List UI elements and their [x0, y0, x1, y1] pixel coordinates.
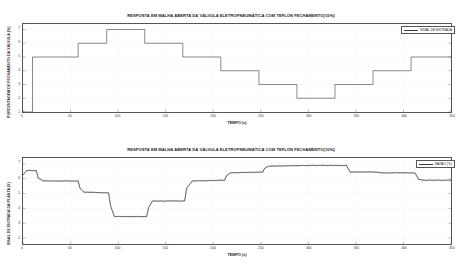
x-tick-label: 200	[205, 247, 221, 250]
chart-title-top: RESPOSTA EM MALHA ABERTA DA VÁLVULA ELET…	[0, 13, 462, 18]
chart-panel-bottom: RESPOSTA EM MALHA ABERTA DA VÁLVULA ELET…	[0, 133, 462, 266]
x-tick-label: 50	[62, 115, 78, 118]
y-tick-label: 4	[8, 207, 20, 210]
x-tick-label: 150	[157, 247, 173, 250]
x-tick-label: 150	[157, 115, 173, 118]
chart-panel-top: RESPOSTA EM MALHA ABERTA DA VÁLVULA ELET…	[0, 0, 462, 133]
y-tick-label: 5	[8, 55, 20, 58]
x-tick-label: 450	[444, 115, 460, 118]
x-tick-label: 0	[14, 115, 30, 118]
y-tick-label: 3	[8, 83, 20, 86]
y-tick-label: 7	[8, 27, 20, 30]
plot-area-top	[22, 23, 452, 113]
x-tick-label: 350	[348, 115, 364, 118]
x-tick-label: 400	[396, 115, 412, 118]
x-tick-label: 0	[14, 247, 30, 250]
x-tick-label: 300	[301, 247, 317, 250]
x-axis-label-bottom: TEMPO (s)	[22, 253, 452, 257]
x-tick-label: 400	[396, 247, 412, 250]
y-tick-label: 6	[8, 177, 20, 180]
x-tick-label: 250	[253, 115, 269, 118]
y-tick-label: 3	[8, 222, 20, 225]
x-tick-label: 100	[110, 115, 126, 118]
plot-svg-bottom	[23, 158, 451, 244]
y-tick-label: 2	[8, 97, 20, 100]
x-tick-label: 450	[444, 247, 460, 250]
legend-line-icon	[404, 30, 418, 31]
x-tick-label: 50	[62, 247, 78, 250]
y-tick-label: 6	[8, 41, 20, 44]
x-tick-label: 250	[253, 247, 269, 250]
legend-line-icon	[419, 164, 433, 165]
plot-area-bottom	[22, 157, 452, 245]
legend-label-top: SINAL DE ENTRADA	[420, 28, 452, 32]
legend-label-bottom: VAZÃO (%)	[435, 162, 452, 166]
legend-top[interactable]: SINAL DE ENTRADA	[401, 26, 455, 34]
y-tick-label: 7	[8, 161, 20, 164]
x-tick-label: 200	[205, 115, 221, 118]
plot-svg-top	[23, 24, 451, 112]
y-tick-label: 2	[8, 237, 20, 240]
x-tick-label: 300	[301, 115, 317, 118]
y-tick-label: 5	[8, 192, 20, 195]
chart-title-bottom: RESPOSTA EM MALHA ABERTA DA VÁLVULA ELET…	[0, 147, 462, 152]
x-tick-label: 100	[110, 247, 126, 250]
x-tick-label: 350	[348, 247, 364, 250]
y-tick-label: 4	[8, 69, 20, 72]
x-axis-label-top: TEMPO (s)	[22, 121, 452, 125]
legend-bottom[interactable]: VAZÃO (%)	[416, 160, 455, 168]
